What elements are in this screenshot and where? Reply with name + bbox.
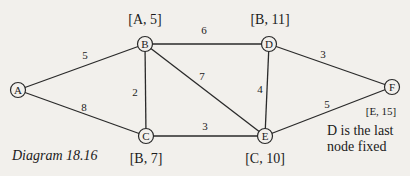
annotation-b: [A, 5]: [128, 12, 161, 27]
note-line-1: D is the last: [327, 123, 394, 139]
edge-b-c: [145, 44, 146, 136]
node-label-f: F: [389, 81, 395, 93]
weight-c-e: 3: [202, 120, 208, 132]
annotation-e: [C, 10]: [245, 151, 285, 166]
weight-b-c: 2: [132, 86, 138, 98]
node-label-c: C: [142, 130, 149, 142]
node-label-d: D: [265, 38, 273, 50]
edge-weights: 5 8 2 6 7 3 4 3 5: [81, 24, 330, 132]
annotation-d: [B, 11]: [250, 12, 289, 27]
weight-a-c: 8: [81, 101, 87, 113]
weight-a-b: 5: [82, 49, 88, 61]
note-line-2: node fixed: [327, 139, 394, 155]
weight-d-f: 3: [320, 48, 326, 60]
annotation-f: [E, 15]: [366, 105, 397, 117]
edge-d-e: [265, 44, 269, 136]
annotation-c: [B, 7]: [130, 151, 163, 166]
weight-d-e: 4: [257, 83, 263, 95]
diagram-note: D is the last node fixed: [327, 123, 394, 155]
weight-e-f: 5: [324, 98, 330, 110]
weight-b-e: 7: [199, 70, 205, 82]
node-label-e: E: [262, 130, 269, 142]
weight-b-d: 6: [201, 24, 207, 36]
node-label-b: B: [141, 38, 148, 50]
edge-a-c: [18, 90, 146, 136]
diagram-caption: Diagram 18.16: [12, 148, 98, 164]
edge-d-f: [269, 44, 392, 87]
node-label-a: A: [14, 84, 22, 96]
